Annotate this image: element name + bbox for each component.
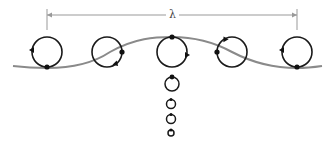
- arrowhead-right-icon: [292, 13, 297, 18]
- wavelength-label: λ: [166, 9, 179, 21]
- water-particle-dot: [44, 64, 49, 69]
- water-particle-dot: [170, 75, 175, 80]
- orbit-trough-left: [29, 37, 62, 70]
- water-particle-dot: [169, 113, 172, 116]
- arrowhead-left-icon: [47, 13, 52, 18]
- water-particle-dot: [169, 34, 174, 39]
- orbit-crest: [157, 34, 190, 67]
- water-particle-dot: [214, 49, 219, 54]
- depth-orbit-2: [167, 98, 176, 109]
- orbit-circle: [282, 37, 312, 67]
- wave-orbit-diagram: [0, 0, 334, 141]
- orbit-circle: [157, 37, 187, 67]
- wave-surface-curve: [13, 37, 322, 68]
- orbit-circle: [32, 37, 62, 67]
- water-particle-dot: [169, 128, 172, 131]
- depth-orbit-1: [165, 75, 179, 91]
- depth-orbit-4: [168, 128, 174, 136]
- orbit-trough-right: [279, 37, 312, 70]
- depth-orbits: [165, 75, 179, 136]
- water-particle-dot: [294, 64, 299, 69]
- water-particle-dot: [169, 98, 172, 101]
- water-particle-dot: [119, 49, 124, 54]
- depth-orbit-3: [167, 113, 176, 124]
- orbit-circle: [92, 37, 122, 67]
